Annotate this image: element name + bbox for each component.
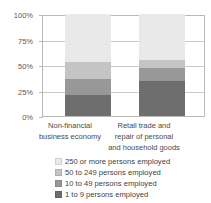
bar-segment [139, 60, 185, 68]
bar-segment [139, 81, 185, 116]
x-axis-category-labels: Non-financialbusiness economyRetail trad… [42, 120, 205, 156]
y-axis-tick [39, 15, 43, 16]
chart-legend: 250 or more persons employed50 to 249 pe… [55, 157, 170, 199]
bar-segment [139, 68, 185, 81]
y-tick-label: 100% [14, 11, 33, 20]
category-label-line: Non-financial [30, 120, 110, 131]
bar-1 [139, 14, 185, 116]
category-label-line: repair of personal [104, 131, 184, 142]
legend-label: 250 or more persons employed [65, 157, 170, 166]
legend-item[interactable]: 250 or more persons employed [55, 157, 170, 166]
y-axis-tick [39, 41, 43, 42]
chart-title-clipped [8, 0, 158, 5]
legend-item[interactable]: 1 to 9 persons employed [55, 190, 170, 199]
bar-segment [65, 79, 111, 94]
bar-segment [139, 14, 185, 60]
legend-label: 50 to 249 persons employed [65, 168, 161, 177]
chart-figure: 0%25%50%75%100% Non-financialbusiness ec… [0, 0, 211, 203]
legend-label: 1 to 9 persons employed [65, 190, 148, 199]
legend-swatch-icon [55, 180, 62, 187]
legend-label: 10 to 49 persons employed [65, 179, 157, 188]
legend-item[interactable]: 10 to 49 persons employed [55, 179, 170, 188]
category-label-line: business economy [30, 131, 110, 142]
y-axis-tick [39, 117, 43, 118]
category-label: Non-financialbusiness economy [30, 120, 110, 142]
bar-segment [65, 95, 111, 116]
y-tick-label: 50% [18, 62, 33, 71]
bar-0 [65, 14, 111, 116]
bar-segment [65, 14, 111, 62]
category-label-line: Retail trade and [104, 120, 184, 131]
legend-swatch-icon [55, 158, 62, 165]
y-axis-tick [39, 92, 43, 93]
category-label: Retail trade andrepair of personaland ho… [104, 120, 184, 153]
y-tick-label: 25% [18, 87, 33, 96]
plot-area [42, 15, 205, 117]
bar-segment [65, 62, 111, 79]
legend-swatch-icon [55, 169, 62, 176]
y-tick-label: 75% [18, 36, 33, 45]
y-axis-labels: 0%25%50%75%100% [0, 15, 38, 117]
y-axis-tick [39, 66, 43, 67]
legend-item[interactable]: 50 to 249 persons employed [55, 168, 170, 177]
legend-swatch-icon [55, 191, 62, 198]
category-label-line: and household goods [104, 142, 184, 153]
